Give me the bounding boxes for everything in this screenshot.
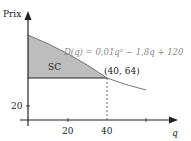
x-tick-label-40: 40 — [101, 126, 113, 136]
area-label: SC — [48, 62, 61, 72]
x-axis-label: q — [172, 128, 178, 138]
x-tick-label-20: 20 — [62, 126, 74, 136]
y-tick-label-20: 20 — [11, 101, 23, 111]
y-axis-arrow-icon — [25, 11, 32, 20]
consumer-surplus-diagram: Prix q 20 40 20 SC D(q) = 0,01q² − 1,8q … — [0, 0, 191, 141]
x-axis-arrow-icon — [169, 117, 178, 124]
y-axis-label: Prix — [3, 9, 21, 19]
equation-label: D(q) = 0,01q² − 1,8q + 120 — [63, 47, 184, 57]
point-label: (40, 64) — [104, 66, 140, 76]
